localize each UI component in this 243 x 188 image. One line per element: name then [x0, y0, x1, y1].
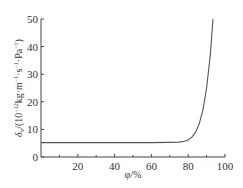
chart: 01020304050 20406080100 φ/% δv/(10−12kg·… — [0, 0, 243, 188]
y-tick-label: 10 — [27, 123, 39, 135]
y-axis-title: δv/(10−12kg·m−1·s−1·Pa−1) — [13, 39, 26, 137]
y-tick-label: 0 — [33, 151, 39, 163]
x-tick-label: 60 — [146, 160, 158, 172]
y-tick-label: 50 — [27, 13, 39, 25]
y-tick-label: 30 — [27, 68, 39, 80]
x-axis-title: φ/% — [125, 169, 142, 180]
x-tick-label: 20 — [72, 160, 84, 172]
x-tick-label: 100 — [217, 160, 234, 172]
data-line — [41, 19, 213, 143]
y-tick-label: 20 — [27, 96, 39, 108]
x-tick-label: 40 — [109, 160, 121, 172]
y-tick-label: 40 — [27, 41, 39, 53]
x-tick-label: 80 — [183, 160, 195, 172]
